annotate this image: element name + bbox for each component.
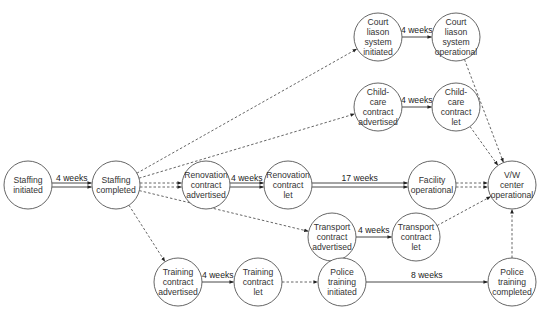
node-renovation-advertised: Renovationcontractadvertised xyxy=(182,161,230,209)
edge-police_initiated-to-police_completed: 8 weeks xyxy=(366,270,488,282)
edge-duration-label: 4 weeks xyxy=(56,173,88,183)
edges-layer: 4 weeks4 weeks17 weeks4 weeks4 weeks4 we… xyxy=(52,25,512,282)
activity-network-diagram: 4 weeks4 weeks17 weeks4 weeks4 weeks4 we… xyxy=(0,0,539,314)
edge-staffing_completed-to-training_advertised xyxy=(129,205,165,261)
node-label-line: let xyxy=(253,287,263,297)
edge-duration-label: 4 weeks xyxy=(401,25,433,35)
node-label-line: contract xyxy=(163,277,194,287)
node-label-line: liason xyxy=(445,27,468,37)
edge-staffing_completed-to-renovation_advertised xyxy=(140,183,182,187)
node-label-line: initiated xyxy=(363,47,393,57)
node-vw-center-operational: V/Wcenteroperational xyxy=(488,161,536,209)
edge-childcare_let-to-vw_center_operational xyxy=(470,126,498,165)
node-label-line: contract xyxy=(191,180,222,190)
edge-court_initiated-to-court_operational: 4 weeks xyxy=(401,25,433,37)
node-label-line: contract xyxy=(441,107,472,117)
node-label-line: Staffing xyxy=(102,175,131,185)
node-label-line: Child- xyxy=(445,87,468,97)
node-court-initiated: Courtliasonsysteminitiated xyxy=(354,13,402,61)
node-label-line: Child- xyxy=(367,87,390,97)
node-training-advertised: Trainingcontractadvertised xyxy=(154,258,202,306)
nodes-layer: StaffinginitiatedStaffingcompletedRenova… xyxy=(4,13,536,306)
node-label-line: let xyxy=(283,190,293,200)
node-label-line: advertised xyxy=(158,287,198,297)
node-label-line: training xyxy=(328,277,356,287)
node-facility-operational: Facilityoperational xyxy=(408,161,456,209)
edge-renovation_advertised-to-renovation_let: 4 weeks xyxy=(230,173,264,187)
node-label-line: completed xyxy=(492,287,532,297)
node-label-line: Renovation xyxy=(266,170,310,180)
node-label-line: Training xyxy=(243,267,274,277)
node-label-line: advertised xyxy=(312,242,352,252)
edge-duration-label: 17 weeks xyxy=(342,173,378,183)
node-label-line: initiated xyxy=(327,287,357,297)
edge-childcare_advertised-to-childcare_let: 4 weeks xyxy=(401,95,433,107)
node-label-line: care xyxy=(370,97,387,107)
node-label-line: Police xyxy=(330,267,354,277)
edge-duration-label: 4 weeks xyxy=(358,225,390,235)
node-childcare-let: Child-carecontractlet xyxy=(432,83,480,131)
node-label-line: Police xyxy=(500,267,524,277)
dashed-dependency-arrow xyxy=(470,126,498,165)
dashed-dependency-arrow xyxy=(139,114,355,178)
edge-staffing_completed-to-childcare_advertised xyxy=(139,114,355,178)
node-label-line: let xyxy=(411,242,421,252)
node-label-line: Staffing xyxy=(14,175,43,185)
node-transport-advertised: Transportcontractadvertised xyxy=(308,213,356,261)
node-label-line: Transport xyxy=(398,222,435,232)
node-transport-let: Transportcontractlet xyxy=(392,213,440,261)
node-staffing-completed: Staffingcompleted xyxy=(92,161,140,209)
node-label-line: V/W xyxy=(504,170,521,180)
node-police-completed: Policetrainingcompleted xyxy=(488,258,536,306)
node-label-line: advertised xyxy=(358,117,398,127)
node-court-operational: Courtliasonsystemoperational xyxy=(432,13,480,61)
node-label-line: system xyxy=(442,37,469,47)
node-label-line: Facility xyxy=(419,175,446,185)
node-label-line: initiated xyxy=(13,185,43,195)
figure-caption-clipped xyxy=(0,307,539,314)
edge-duration-label: 4 weeks xyxy=(202,270,234,280)
node-childcare-advertised: Child-carecontractadvertised xyxy=(354,83,402,131)
edge-training_advertised-to-training_let: 4 weeks xyxy=(202,270,234,282)
edge-duration-label: 8 weeks xyxy=(411,270,443,280)
node-label-line: Court xyxy=(445,17,467,27)
node-renovation-let: Renovationcontractlet xyxy=(264,161,312,209)
node-label-line: contract xyxy=(243,277,274,287)
node-label-line: Renovation xyxy=(184,170,228,180)
node-label-line: Transport xyxy=(314,222,351,232)
node-label-line: liason xyxy=(367,27,390,37)
edge-staffing_initiated-to-staffing_completed: 4 weeks xyxy=(52,173,92,187)
node-label-line: contract xyxy=(317,232,348,242)
node-label-line: system xyxy=(364,37,391,47)
node-label-line: Training xyxy=(163,267,194,277)
dashed-dependency-arrow xyxy=(129,205,165,261)
edge-transport_advertised-to-transport_let: 4 weeks xyxy=(356,225,392,237)
node-label-line: Court xyxy=(367,17,389,27)
node-label-line: care xyxy=(448,97,465,107)
node-label-line: operational xyxy=(435,47,478,57)
edge-duration-label: 4 weeks xyxy=(401,95,433,105)
node-label-line: completed xyxy=(96,185,136,195)
node-police-initiated: Policetraininginitiated xyxy=(318,258,366,306)
node-label-line: contract xyxy=(401,232,432,242)
node-label-line: center xyxy=(500,180,524,190)
node-training-let: Trainingcontractlet xyxy=(234,258,282,306)
node-label-line: let xyxy=(451,117,461,127)
edge-duration-label: 4 weeks xyxy=(231,173,263,183)
edge-facility_operational-to-vw_center_operational xyxy=(456,183,488,187)
node-label-line: training xyxy=(498,277,526,287)
dashed-dependency-arrow xyxy=(137,49,357,173)
edge-staffing_completed-to-court_initiated xyxy=(137,49,357,173)
node-label-line: contract xyxy=(363,107,394,117)
node-label-line: operational xyxy=(411,185,454,195)
node-staffing-initiated: Staffinginitiated xyxy=(4,161,52,209)
node-label-line: advertised xyxy=(186,190,226,200)
node-label-line: contract xyxy=(273,180,304,190)
node-label-line: operational xyxy=(491,190,534,200)
edge-renovation_let-to-facility_operational: 17 weeks xyxy=(312,173,408,187)
